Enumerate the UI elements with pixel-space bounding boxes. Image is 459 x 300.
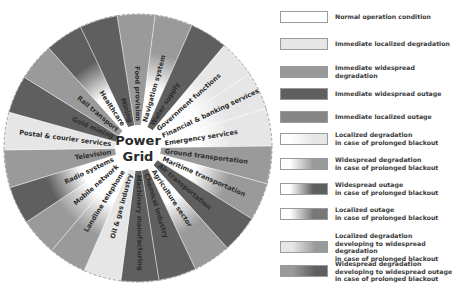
legend-swatch bbox=[280, 183, 328, 195]
legend-label: Immediate localized degradation bbox=[335, 40, 450, 48]
legend-item-prolonged-localized-outage: Localized outage in case of prolonged bl… bbox=[280, 206, 438, 221]
center-title-line1: Power bbox=[115, 133, 161, 148]
legend-item-immediate-localized-outage: Immediate localized outage bbox=[280, 111, 432, 123]
legend-label: Widespread outage in case of prolonged b… bbox=[335, 181, 438, 196]
legend-label: Localized degradation in case of prolong… bbox=[335, 131, 438, 146]
sector-label: Machinery manufacturing bbox=[135, 175, 144, 271]
legend-swatch bbox=[280, 11, 328, 23]
legend-swatch bbox=[280, 38, 328, 50]
legend-item-immediate-widespread-degradation: Immediate widespread degradation bbox=[280, 64, 459, 79]
legend-item-developing-widespread-degradation-to-outage: Widespread degradation developing to wid… bbox=[280, 260, 452, 283]
center-hub bbox=[115, 125, 161, 171]
legend-item-prolonged-widespread-outage: Widespread outage in case of prolonged b… bbox=[280, 181, 438, 196]
sector-label: Food provision bbox=[133, 66, 142, 121]
legend-swatch bbox=[280, 265, 328, 277]
legend-label: Localized outage in case of prolonged bl… bbox=[335, 206, 438, 221]
legend-item-normal: Normal operation condition bbox=[280, 11, 431, 23]
legend-item-immediate-widespread-outage: Immediate widespread outage bbox=[280, 88, 441, 100]
legend-swatch bbox=[280, 88, 328, 100]
legend-label: Localized degradation developing to wide… bbox=[335, 232, 459, 262]
legend-label: Normal operation condition bbox=[335, 13, 431, 21]
legend-label: Immediate localized outage bbox=[335, 113, 432, 121]
legend-item-prolonged-localized-degradation: Localized degradation in case of prolong… bbox=[280, 131, 438, 146]
legend-item-developing-localized-to-widespread-degradation: Localized degradation developing to wide… bbox=[280, 232, 459, 262]
power-grid-wheel: Food provisionNavigation systemWater sup… bbox=[0, 0, 278, 300]
legend-swatch bbox=[280, 158, 328, 170]
legend-label: Widespread degradation developing to wid… bbox=[335, 260, 452, 283]
legend-swatch bbox=[280, 208, 328, 220]
legend-label: Widespread degradation in case of prolon… bbox=[335, 156, 438, 171]
legend-item-prolonged-widespread-degradation: Widespread degradation in case of prolon… bbox=[280, 156, 438, 171]
legend-swatch bbox=[280, 133, 328, 145]
legend-swatch bbox=[280, 66, 328, 78]
legend: Normal operation condition Immediate loc… bbox=[280, 0, 459, 300]
center-title-line2: Grid bbox=[123, 149, 154, 164]
legend-swatch bbox=[280, 241, 328, 253]
legend-swatch bbox=[280, 111, 328, 123]
legend-item-immediate-localized-degradation: Immediate localized degradation bbox=[280, 38, 450, 50]
legend-label: Immediate widespread degradation bbox=[335, 64, 459, 79]
legend-label: Immediate widespread outage bbox=[335, 90, 441, 98]
